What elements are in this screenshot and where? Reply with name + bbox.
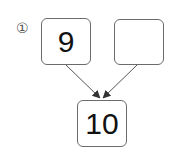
- box-value: 9: [58, 25, 75, 59]
- arrow-right: [104, 65, 137, 97]
- number-box-top-right-blank[interactable]: [114, 19, 164, 65]
- arrow-left: [66, 65, 99, 97]
- number-box-bottom-total: 10: [77, 100, 127, 147]
- number-box-top-left: 9: [41, 18, 91, 65]
- box-value: 10: [85, 107, 118, 141]
